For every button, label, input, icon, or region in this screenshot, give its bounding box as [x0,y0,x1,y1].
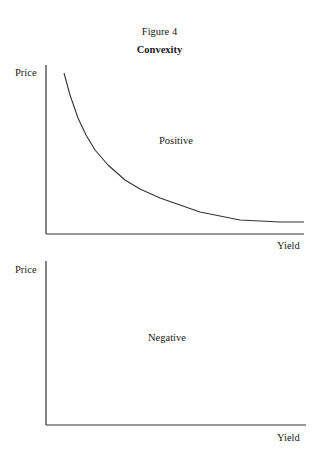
bottom-y-axis-label: Price [15,264,37,275]
positive-convexity-curve [64,73,304,222]
top-x-axis-label: Yield [277,240,300,251]
bottom-annotation: Negative [148,332,186,343]
top-y-axis-label: Price [15,67,37,78]
top-annotation: Positive [159,135,193,146]
bottom-x-axis-label: Yield [277,432,300,443]
chart-canvas [0,0,319,464]
